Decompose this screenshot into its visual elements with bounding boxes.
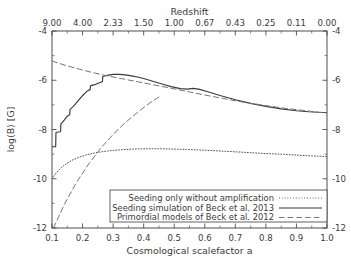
top-tick-label: 1.00 — [165, 18, 184, 28]
legend-label-2: Primordial models of Beck et al. 2012 — [117, 212, 274, 222]
y-tick-label-right: -6 — [332, 75, 341, 85]
y-tick-label: -8 — [38, 125, 47, 135]
y-tick-label-right: -8 — [332, 125, 341, 135]
series-line — [52, 74, 327, 146]
x-tick-label: 0.6 — [198, 233, 212, 243]
top-axis-title: Redshift — [170, 6, 208, 17]
y-tick-label: -12 — [33, 223, 47, 233]
x-tick-label: 0.1 — [45, 233, 59, 243]
chart-canvas: 0.19.000.24.000.32.330.41.500.51.000.60.… — [0, 0, 351, 273]
top-tick-label: 0.43 — [226, 18, 245, 28]
legend-label-0: Seeding only without amplification — [129, 193, 274, 203]
x-tick-label: 1.0 — [320, 233, 334, 243]
y-tick-label: -10 — [33, 174, 47, 184]
x-axis-title: Cosmological scalefactor a — [127, 245, 253, 256]
top-tick-label: 0.67 — [195, 18, 214, 28]
top-tick-label: 1.50 — [134, 18, 153, 28]
series-line — [52, 149, 327, 179]
x-tick-label: 0.7 — [228, 233, 242, 243]
y-tick-label-right: -4 — [332, 26, 341, 36]
legend-label-1: Seeding simulation of Beck et al. 2013 — [112, 203, 274, 213]
y-tick-label-right: -10 — [332, 174, 346, 184]
y-tick-label: -6 — [38, 75, 47, 85]
x-tick-label: 0.9 — [290, 233, 304, 243]
x-tick-label: 0.3 — [106, 233, 120, 243]
y-axis-title: log(B) [G] — [5, 107, 16, 153]
x-tick-label: 0.5 — [167, 233, 181, 243]
top-tick-label: 2.33 — [104, 18, 123, 28]
top-tick-label: 4.00 — [73, 18, 92, 28]
figure: 0.19.000.24.000.32.330.41.500.51.000.60.… — [0, 0, 351, 273]
x-tick-label: 0.2 — [76, 233, 90, 243]
y-tick-label-right: -12 — [332, 223, 346, 233]
x-tick-label: 0.4 — [137, 233, 151, 243]
x-tick-label: 0.8 — [259, 233, 273, 243]
y-tick-label: -4 — [38, 26, 47, 36]
top-tick-label: 0.25 — [256, 18, 275, 28]
series-line — [52, 61, 327, 113]
top-tick-label: 0.11 — [287, 18, 306, 28]
